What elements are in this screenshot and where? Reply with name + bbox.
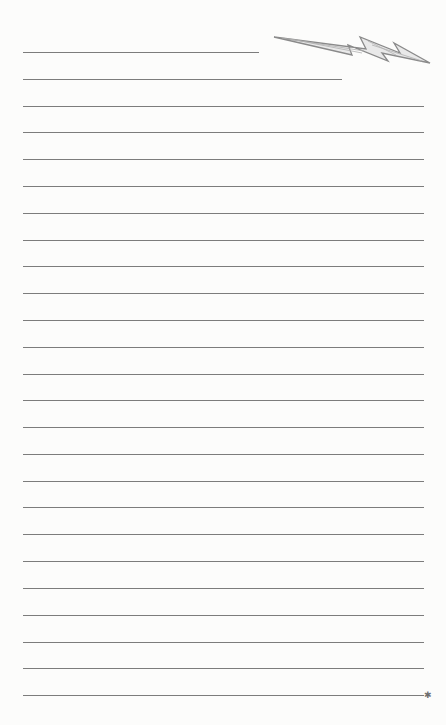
ruled-line [23, 668, 424, 669]
ruled-line [23, 106, 424, 107]
ruled-line [23, 79, 342, 80]
ruled-line [23, 266, 424, 267]
ruled-line [23, 159, 424, 160]
ruled-line [23, 52, 259, 53]
ruled-line [23, 427, 424, 428]
ruled-line [23, 615, 424, 616]
ruled-line [23, 507, 424, 508]
ruled-line [23, 132, 424, 133]
ruled-line [23, 293, 424, 294]
end-star-icon: ✱ [423, 691, 432, 700]
ruled-line [23, 534, 424, 535]
ruled-line [23, 400, 424, 401]
ruled-line [23, 588, 424, 589]
lined-paper-page: ✱ [0, 0, 446, 725]
ruled-line [23, 213, 424, 214]
ruled-line [23, 561, 424, 562]
ruled-line [23, 347, 424, 348]
ruled-line [23, 642, 424, 643]
ruled-line [23, 240, 424, 241]
ruled-line [23, 320, 424, 321]
ruled-line [23, 374, 424, 375]
ruled-line [23, 186, 424, 187]
ruled-line [23, 481, 424, 482]
lightning-bolt-icon [272, 33, 432, 65]
ruled-line [23, 695, 424, 696]
ruled-line [23, 454, 424, 455]
